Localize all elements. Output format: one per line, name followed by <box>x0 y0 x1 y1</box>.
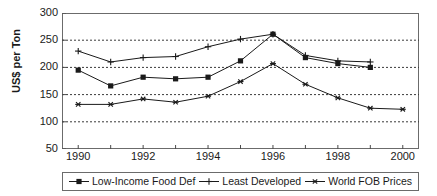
data-point-marker <box>238 79 244 83</box>
legend-item-1[interactable]: Least Developed <box>199 176 301 187</box>
legend-item-2[interactable]: World FOB Prices <box>305 176 412 187</box>
y-tick-label: 100 <box>24 116 58 127</box>
data-point-marker <box>335 96 341 100</box>
data-point-marker <box>140 97 146 101</box>
x-tick-label: 1998 <box>318 151 358 162</box>
data-point-marker <box>238 58 243 63</box>
chart-legend: Low-Income Food DefLeast DevelopedWorld … <box>62 172 419 191</box>
legend-label: World FOB Prices <box>328 176 412 187</box>
data-point-marker <box>367 59 373 65</box>
x-tick-label: 2000 <box>383 151 423 162</box>
data-point-marker <box>368 65 373 70</box>
line-chart-figure: US$ per Ton 30025020015010050 1990199219… <box>0 0 437 196</box>
series-line <box>78 64 403 110</box>
data-point-marker <box>367 106 373 110</box>
y-tick-label: 300 <box>24 7 58 18</box>
y-tick-label: 200 <box>24 61 58 72</box>
x-tick-label: 1996 <box>253 151 293 162</box>
data-point-marker <box>141 75 146 80</box>
data-point-marker <box>108 83 113 88</box>
data-point-marker <box>206 178 212 184</box>
y-tick-label: 250 <box>24 34 58 45</box>
legend-label: Low-Income Food Def <box>92 176 195 187</box>
data-point-marker <box>270 61 276 65</box>
data-point-marker <box>173 100 179 104</box>
data-point-marker <box>76 68 81 73</box>
x-tick-label: 1992 <box>123 151 163 162</box>
data-point-marker <box>173 76 178 81</box>
data-point-marker <box>76 179 81 184</box>
data-point-marker <box>312 179 318 183</box>
data-point-marker <box>400 107 406 111</box>
square-marker-icon <box>69 177 89 186</box>
data-point-marker <box>75 48 81 54</box>
data-point-marker <box>205 44 211 50</box>
series-0 <box>76 32 373 89</box>
x-axis-tick-labels: 199019921994199619982000 <box>0 151 437 167</box>
data-point-marker <box>172 53 178 59</box>
data-point-marker <box>237 36 243 42</box>
series-1 <box>75 31 373 65</box>
y-tick-label: 150 <box>24 89 58 100</box>
data-point-marker <box>75 102 81 106</box>
data-point-marker <box>205 75 210 80</box>
plus-marker-icon <box>199 177 219 186</box>
legend-item-0[interactable]: Low-Income Food Def <box>69 176 195 187</box>
series-line <box>78 34 370 62</box>
plot-area <box>62 13 419 149</box>
data-point-marker <box>107 59 113 65</box>
data-point-marker <box>140 54 146 60</box>
legend-label: Least Developed <box>222 176 301 187</box>
x-tick-label: 1990 <box>58 151 98 162</box>
data-point-marker <box>205 94 211 98</box>
plot-series-svg <box>62 13 419 149</box>
x-tick-label: 1994 <box>188 151 228 162</box>
data-point-marker <box>302 82 308 86</box>
asterisk-marker-icon <box>305 177 325 186</box>
series-2 <box>75 61 406 111</box>
data-point-marker <box>108 102 114 106</box>
